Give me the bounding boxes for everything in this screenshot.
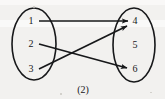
- node-label-4: 4: [133, 16, 138, 26]
- node-label-6: 6: [133, 64, 138, 74]
- node-label-1: 1: [29, 16, 34, 26]
- figure-caption: (2): [77, 85, 89, 95]
- node-label-5: 5: [133, 40, 138, 50]
- node-label-2: 2: [29, 39, 34, 49]
- set-mapping-figure: 1 2 3 4 5 6 (2): [0, 0, 165, 99]
- left-set-ellipse: [12, 8, 56, 80]
- node-label-3: 3: [29, 64, 34, 74]
